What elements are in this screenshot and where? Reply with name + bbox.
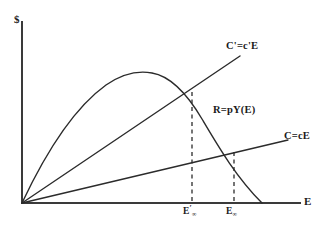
economics-effort-diagram: $ E C'=c'E R=pY(E) C=cE E′∞ E∞ — [0, 0, 327, 234]
revenue-curve-label: R=pY(E) — [213, 105, 255, 116]
x-tick-first-base: E — [183, 206, 190, 216]
cost-curve-label: C=cE — [284, 131, 310, 142]
x-tick-label-first: E′∞ — [183, 207, 196, 217]
x-tick-label-second: E∞ — [226, 207, 237, 217]
chart-canvas — [0, 0, 327, 234]
x-axis-label: E — [304, 196, 312, 207]
x-tick-second-subscript: ∞ — [233, 211, 237, 217]
cost-line — [22, 140, 288, 203]
revenue-curve — [22, 72, 262, 203]
x-tick-second-base: E — [226, 206, 233, 216]
y-axis-label: $ — [14, 14, 20, 25]
marginal-cost-curve-label: C'=c'E — [226, 41, 258, 52]
marginal-cost-line — [22, 56, 240, 203]
x-tick-first-subscript: ∞ — [192, 211, 196, 217]
